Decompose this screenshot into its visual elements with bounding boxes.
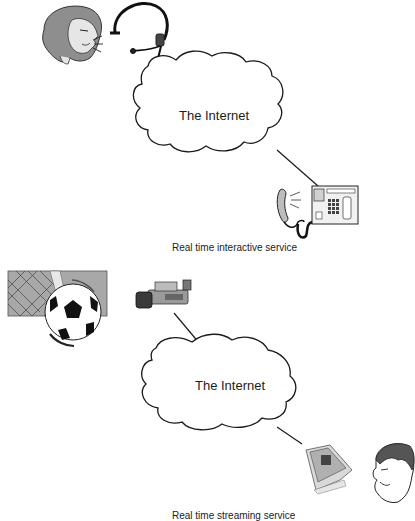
connection-line [277,427,302,444]
cloud-label-bottom: The Internet [195,378,265,393]
desk-phone-icon [277,186,358,238]
man-avatar-icon [373,444,414,503]
monitor-icon [306,445,352,494]
caption-interactive-service: Real time interactive service [172,242,297,253]
soccer-ball-icon [8,271,107,346]
caption-streaming-service: Real time streaming service [172,510,295,521]
woman-avatar-icon [43,6,103,64]
cloud-label-top: The Internet [179,108,249,123]
video-camera-icon [136,280,191,308]
connection-line [277,150,318,186]
internet-cloud-icon-top [133,51,282,152]
